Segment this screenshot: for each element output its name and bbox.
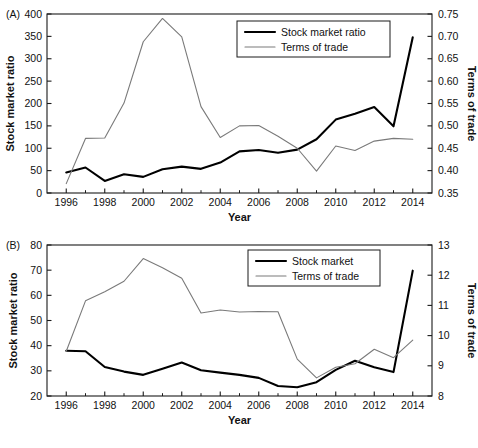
- x-axis-title: Year: [228, 211, 252, 223]
- x-axis-tick-label: 2008: [286, 399, 310, 411]
- x-axis-tick-label: 2002: [170, 399, 194, 411]
- x-axis-tick-label: 2014: [401, 399, 425, 411]
- y-axis-left-tick-label: 300: [24, 52, 42, 64]
- y-axis-left-tick-label: 400: [24, 8, 42, 20]
- y-axis-left-tick-label: 200: [24, 97, 42, 109]
- x-axis-tick-label: 2006: [247, 399, 271, 411]
- y-axis-right-tick-label: 13: [438, 239, 450, 251]
- y-axis-left-title: Stock market ratio: [4, 55, 16, 151]
- y-axis-left-tick-label: 250: [24, 75, 42, 87]
- y-axis-left-tick-label: 40: [30, 339, 42, 351]
- chart-panel-b: 1996199820002002200420062008201020122014…: [0, 228, 478, 448]
- y-axis-right-tick-label: 11: [438, 299, 449, 311]
- y-axis-left-tick-label: 100: [24, 142, 42, 154]
- x-axis-tick-label: 2004: [209, 399, 233, 411]
- y-axis-left-tick-label: 50: [30, 164, 42, 176]
- y-axis-right-tick-label: 8: [438, 390, 444, 402]
- legend-label: Terms of trade: [292, 270, 359, 282]
- y-axis-left-tick-label: 70: [30, 264, 42, 276]
- y-axis-left-tick-label: 80: [30, 239, 42, 251]
- y-axis-left-tick-label: 60: [30, 289, 42, 301]
- y-axis-right-tick-label: 0.55: [438, 97, 459, 109]
- figure-container: 1996199820002002200420062008201020122014…: [0, 0, 478, 448]
- y-axis-right-tick-label: 0.40: [438, 164, 459, 176]
- panel-letter: (A): [6, 8, 20, 20]
- x-axis-tick-label: 2012: [363, 399, 387, 411]
- y-axis-left-tick-label: 150: [24, 119, 42, 131]
- y-axis-right-tick-label: 0.75: [438, 8, 459, 20]
- panel-b-plot: 1996199820002002200420062008201020122014…: [0, 228, 478, 448]
- series-line-stock-market: [66, 37, 413, 181]
- x-axis-tick-label: 2014: [401, 196, 425, 208]
- x-axis-tick-label: 1998: [93, 399, 117, 411]
- y-axis-left-tick-label: 50: [30, 314, 42, 326]
- panel-a-plot: 1996199820002002200420062008201020122014…: [0, 0, 478, 236]
- x-axis-tick-label: 2010: [324, 399, 348, 411]
- y-axis-right-tick-label: 0.70: [438, 30, 459, 42]
- y-axis-left-tick-label: 20: [30, 390, 42, 402]
- x-axis-tick-label: 1996: [55, 196, 79, 208]
- x-axis-title: Year: [228, 414, 252, 426]
- x-axis-tick-label: 2012: [363, 196, 387, 208]
- y-axis-right-tick-label: 9: [438, 359, 444, 371]
- y-axis-right-title: Terms of trade: [466, 283, 478, 359]
- x-axis-tick-label: 2004: [209, 196, 233, 208]
- y-axis-left-tick-label: 0: [36, 187, 42, 199]
- y-axis-right-tick-label: 12: [438, 269, 450, 281]
- x-axis-tick-label: 2000: [132, 196, 156, 208]
- x-axis-tick-label: 1998: [93, 196, 117, 208]
- legend-label: Stock market ratio: [281, 26, 366, 38]
- y-axis-left-tick-label: 30: [30, 364, 42, 376]
- y-axis-left-title: Stock market ratio: [7, 272, 19, 368]
- x-axis-tick-label: 2010: [324, 196, 348, 208]
- y-axis-right-tick-label: 0.50: [438, 119, 459, 131]
- y-axis-right-tick-label: 10: [438, 329, 450, 341]
- chart-panel-a: 1996199820002002200420062008201020122014…: [0, 0, 478, 236]
- panel-letter: (B): [6, 239, 20, 251]
- series-line-stock-market: [66, 271, 413, 388]
- y-axis-right-title: Terms of trade: [466, 66, 478, 142]
- legend-label: Terms of trade: [281, 41, 348, 53]
- x-axis-tick-label: 2000: [132, 399, 156, 411]
- y-axis-right-tick-label: 0.65: [438, 52, 459, 64]
- x-axis-tick-label: 2002: [170, 196, 194, 208]
- legend-label: Stock market: [292, 255, 353, 267]
- x-axis-tick-label: 1996: [55, 399, 79, 411]
- y-axis-right-tick-label: 0.60: [438, 75, 459, 87]
- y-axis-right-tick-label: 0.35: [438, 187, 459, 199]
- x-axis-tick-label: 2008: [286, 196, 310, 208]
- x-axis-tick-label: 2006: [247, 196, 271, 208]
- y-axis-right-tick-label: 0.45: [438, 142, 459, 154]
- y-axis-left-tick-label: 350: [24, 30, 42, 42]
